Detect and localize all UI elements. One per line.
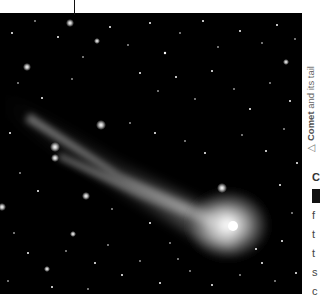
figure-caption: △Comet and its tail	[304, 22, 320, 152]
leader-line	[74, 0, 75, 15]
body-line-7: c	[312, 282, 320, 301]
body-line-1: C	[312, 168, 320, 187]
triangle-marker-icon: △	[305, 144, 316, 152]
caption-bold: Comet	[305, 111, 316, 141]
caption-rest: and its tail	[305, 66, 316, 111]
body-text-column: C f t t s c	[312, 168, 320, 301]
body-line-3: f	[312, 206, 320, 225]
body-line-4: t	[312, 225, 320, 244]
heading-block-marker	[312, 189, 320, 203]
comet-photo	[0, 13, 302, 294]
body-line-6: s	[312, 263, 320, 282]
body-line-5: t	[312, 244, 320, 263]
